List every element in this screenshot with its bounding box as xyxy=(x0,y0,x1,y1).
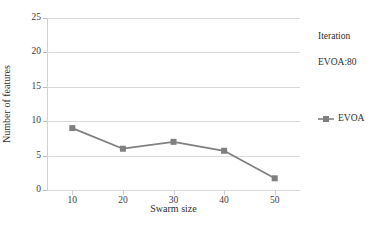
series-path xyxy=(72,128,274,178)
series-line-evoa xyxy=(47,18,300,190)
y-tick-mark xyxy=(43,190,47,191)
data-point-marker xyxy=(171,139,177,145)
x-axis-title: Swarm size xyxy=(47,203,300,214)
legend: EVOA xyxy=(318,114,364,124)
iteration-label: Iteration xyxy=(318,32,350,42)
legend-label-evoa: EVOA xyxy=(338,114,364,124)
data-point-marker xyxy=(221,148,227,154)
chart-container: Number of features 0510152025 1020304050… xyxy=(0,0,385,230)
legend-marker-icon xyxy=(318,114,334,124)
iteration-value: EVOA:80 xyxy=(318,58,357,68)
y-tick-label: 20 xyxy=(32,48,42,58)
y-tick-label: 25 xyxy=(32,13,42,23)
y-tick-label: 15 xyxy=(32,82,42,92)
y-tick-label: 5 xyxy=(36,151,41,161)
data-point-marker xyxy=(120,146,126,152)
y-tick-label: 0 xyxy=(36,185,41,195)
data-point-marker xyxy=(272,175,278,181)
plot-area: 0510152025 1020304050 xyxy=(47,18,300,190)
data-point-marker xyxy=(69,125,75,131)
y-axis-title: Number of features xyxy=(1,65,12,143)
y-tick-label: 10 xyxy=(32,116,42,126)
